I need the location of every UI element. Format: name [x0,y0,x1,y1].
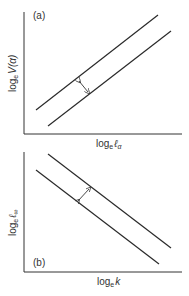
panel-b-label: (b) [33,257,45,268]
panel-b-x-label: logek [97,276,121,288]
panel-b-upper-line [48,154,171,248]
panel-a-x-label: logeℓα [96,138,123,150]
panel-a-double-arrow-icon [79,81,88,92]
panel-a-lower-line [48,31,171,126]
panel-b-y-label: logeℓ∞ [7,210,19,237]
panel-b-lower-line [36,170,159,264]
panel-a-y-label: logeV(α) [7,55,19,92]
panel-b: (b) logek logeℓ∞ [7,152,182,288]
panel-a-upper-line [36,15,158,110]
figure: (a) logeℓα logeV(α) (b) logek logeℓ∞ [0,0,189,296]
panel-b-double-arrow-icon [78,189,89,201]
panel-a-label: (a) [33,10,45,21]
panel-a: (a) logeℓα logeV(α) [7,10,182,150]
